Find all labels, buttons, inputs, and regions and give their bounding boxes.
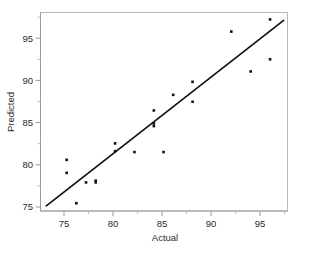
data-point — [191, 81, 194, 84]
data-point — [114, 142, 117, 145]
y-axis-ticks — [36, 17, 41, 207]
x-tick-label-75: 75 — [59, 218, 70, 229]
plot-canvas: 95 90 85 80 75 75 80 85 90 95 — [0, 0, 309, 254]
data-point — [191, 100, 194, 103]
y-tick-label-75: 75 — [22, 201, 33, 212]
x-axis-ticks — [64, 211, 285, 216]
y-tick-label-95: 95 — [22, 33, 33, 44]
regression-line-group — [46, 20, 283, 206]
x-tick-labels: 75 80 85 90 95 — [59, 218, 266, 229]
data-point — [65, 159, 68, 162]
y-axis-title: Predicted — [5, 92, 16, 132]
x-tick-label-90: 90 — [206, 218, 217, 229]
x-tick-label-85: 85 — [157, 218, 168, 229]
data-point — [133, 151, 136, 154]
y-tick-label-85: 85 — [22, 117, 33, 128]
data-point — [249, 70, 252, 73]
x-axis-title: Actual — [152, 232, 178, 243]
y-tick-label-80: 80 — [22, 159, 33, 170]
data-point — [172, 94, 175, 97]
y-tick-labels: 95 90 85 80 75 — [22, 33, 33, 213]
data-point — [153, 125, 156, 128]
data-point — [162, 151, 165, 154]
data-point — [75, 202, 78, 205]
data-point — [94, 179, 97, 182]
data-point — [65, 172, 68, 175]
x-tick-label-80: 80 — [108, 218, 119, 229]
data-point — [269, 18, 272, 21]
regression-line — [46, 20, 283, 206]
y-tick-label-90: 90 — [22, 75, 33, 86]
x-tick-label-95: 95 — [255, 218, 266, 229]
data-point — [114, 150, 117, 153]
data-point — [153, 122, 156, 125]
data-point — [269, 58, 272, 61]
data-point — [153, 109, 156, 112]
data-point — [230, 30, 233, 33]
data-point — [85, 181, 88, 184]
scatter-plot-figure: 95 90 85 80 75 75 80 85 90 95 — [0, 0, 309, 254]
